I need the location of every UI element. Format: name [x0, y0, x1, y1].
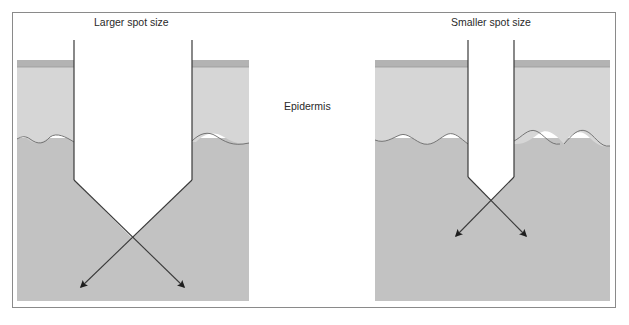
- spot-size-diagram: [0, 0, 629, 325]
- epidermis-label: Epidermis: [284, 100, 331, 112]
- right-panel-title: Smaller spot size: [451, 16, 531, 28]
- right-panel-tissue: [375, 40, 610, 301]
- laser-probe-small: [468, 40, 514, 200]
- left-panel-tissue: [17, 40, 249, 301]
- left-panel-title: Larger spot size: [94, 16, 169, 28]
